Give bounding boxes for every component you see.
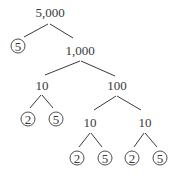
node-100: 100: [107, 78, 127, 93]
edge-1000-100: [81, 61, 115, 76]
factor-tree-diagram: 5,000 5 1,000 10 2 5 100 10 2 5 10 2 5: [0, 0, 176, 177]
node-10: 10: [84, 115, 97, 130]
node-prime-2: 2: [74, 151, 81, 166]
edge-1000-10: [45, 61, 80, 75]
edge-10-2: [134, 133, 144, 147]
edge-5000-5: [24, 24, 48, 37]
node-prime-5: 5: [15, 39, 22, 54]
node-5000: 5,000: [35, 5, 64, 20]
node-prime-5: 5: [102, 151, 109, 166]
node-10: 10: [36, 78, 49, 93]
edge-5000-1000: [50, 24, 73, 38]
edge-10-5: [91, 133, 102, 147]
edge-10-2: [79, 133, 90, 147]
node-prime-5: 5: [157, 151, 164, 166]
edge-100-10: [117, 96, 141, 110]
node-1000: 1,000: [65, 43, 94, 58]
edge-100-10: [94, 96, 116, 110]
node-10: 10: [139, 115, 152, 130]
edge-10-2: [30, 95, 41, 108]
edge-10-5: [145, 133, 157, 147]
node-prime-2: 2: [25, 112, 32, 127]
node-prime-2: 2: [129, 151, 136, 166]
node-prime-5: 5: [53, 112, 60, 127]
edge-10-5: [42, 95, 53, 108]
